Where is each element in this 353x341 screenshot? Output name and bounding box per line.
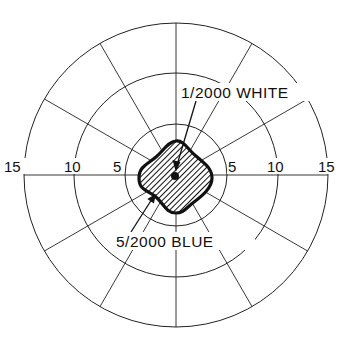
white-field-dot xyxy=(171,172,179,180)
axis-label-left-15: 15 xyxy=(4,158,21,175)
axis-label-left-5: 5 xyxy=(113,158,121,175)
axis-label-right-10: 10 xyxy=(267,158,284,175)
blue-arrowhead xyxy=(149,195,156,203)
polar-field-diagram: 15 10 5 5 10 15 1/2000 WHITE 5/2000 BLUE xyxy=(0,0,353,341)
annotation-blue: 5/2000 BLUE xyxy=(116,233,214,250)
axis-label-left-10: 10 xyxy=(64,158,81,175)
axis-label-right-15: 15 xyxy=(318,158,335,175)
axis-label-right-5: 5 xyxy=(228,158,236,175)
annotation-white: 1/2000 WHITE xyxy=(181,84,289,101)
